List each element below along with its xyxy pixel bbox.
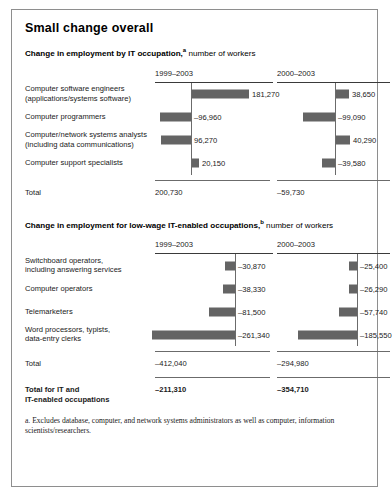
- chart-1-col-header-2: 2000–2003: [277, 69, 315, 80]
- chart-1-col-header-1: 1999–2003: [155, 69, 193, 80]
- chart-2-zeroline-b: [357, 277, 358, 300]
- chart-2-total-rule-b: [277, 351, 390, 352]
- chart-2-row-3-value-a: –81,500: [238, 307, 265, 316]
- chart-1-total-value-a: 200,730: [155, 188, 182, 197]
- section-2-title-bold: Change in employment for low-wage IT-ena…: [25, 221, 260, 230]
- chart-1-row-1: Computer software engineers(applications…: [25, 83, 364, 106]
- chart-2-row-1-bar-b: [349, 261, 357, 270]
- chart-1-total-row: Total 200,730 –59,730: [25, 175, 364, 201]
- chart-1-row-2-bar-b: [303, 113, 335, 122]
- chart-2-total-value-a: –412,040: [155, 359, 187, 368]
- chart-2-row-1: Switchboard operators,including answerin…: [25, 254, 364, 277]
- chart-1-total-label: Total: [25, 188, 41, 198]
- chart-1-total-rule-b: [277, 180, 390, 181]
- chart-2-row-4-value-b: –185,550: [360, 330, 392, 339]
- chart-2-total-label: Total: [25, 359, 41, 369]
- chart-1: 1999–2003 2000–2003 Computer software en…: [25, 68, 364, 201]
- chart-1-total-value-b: –59,730: [277, 188, 304, 197]
- grand-total-rule-b: [277, 377, 390, 378]
- chart-1-row-1-value-a: 181,270: [252, 90, 279, 99]
- chart-1-header-row: 1999–2003 2000–2003: [25, 68, 364, 83]
- chart-1-row-2-value-a: –96,960: [194, 113, 221, 122]
- chart-1-row-4-value-a: 20,150: [202, 159, 225, 168]
- chart-1-row-2-label: Computer programmers: [25, 112, 153, 122]
- chart-2-zeroline-b: [357, 323, 358, 346]
- chart-2-row-3-label: Telemarketers: [25, 307, 153, 317]
- chart-1-row-3-value-b: 40,290: [353, 136, 376, 145]
- section-2-title: Change in employment for low-wage IT-ena…: [25, 221, 364, 232]
- chart-1-zeroline-b: [335, 106, 336, 129]
- chart-2-zeroline-a: [235, 254, 236, 277]
- grand-total-row: Total for IT andIT-enabled occupations –…: [25, 372, 364, 402]
- chart-1-row-4-bar-b: [322, 159, 335, 168]
- chart-1-row-3-value-a: 96,270: [194, 136, 217, 145]
- chart-1-row-4-value-b: –39,580: [338, 159, 365, 168]
- section-1-title-normal: number of workers: [186, 49, 255, 58]
- chart-1-zeroline-a: [191, 106, 192, 129]
- chart-2-header-row: 1999–2003 2000–2003: [25, 239, 364, 254]
- chart-1-row-3-bar-a: [161, 136, 191, 145]
- grand-total-value-a: –211,310: [155, 385, 186, 394]
- grand-total-value-b: –354,710: [277, 385, 309, 394]
- chart-1-row-2-value-b: –99,090: [338, 113, 365, 122]
- chart-2-row-4-bar-a: [152, 330, 235, 339]
- chart-1-row-1-label: Computer software engineers(applications…: [25, 84, 153, 103]
- chart-1-row-2: Computer programmers –96,960 –99,090: [25, 106, 364, 129]
- chart-2-row-3-bar-b: [339, 307, 357, 316]
- chart-2-row-4-value-a: –261,340: [238, 330, 270, 339]
- chart-2-row-1-label: Switchboard operators,including answerin…: [25, 256, 153, 275]
- chart-2-row-1-value-a: –30,870: [238, 261, 265, 270]
- chart-2-row-4-label: Word processors, typists,data-entry cler…: [25, 325, 153, 344]
- section-spacer: [25, 201, 364, 221]
- chart-1-row-1-bar-a: [192, 90, 249, 99]
- chart-2-row-3-value-b: –57,740: [360, 307, 387, 316]
- chart-1-row-3-bar-b: [336, 136, 350, 145]
- section-2-title-normal: number of workers: [264, 221, 333, 230]
- grand-total-rule-a: [155, 377, 270, 378]
- chart-1-row-4-bar-a: [192, 159, 199, 168]
- grand-total-label: Total for IT andIT-enabled occupations: [25, 385, 109, 404]
- chart-2-zeroline-b: [357, 300, 358, 323]
- chart-2-row-2-value-a: –38,330: [238, 284, 265, 293]
- chart-2-row-4-bar-b: [298, 330, 357, 339]
- chart-2-zeroline-a: [235, 277, 236, 300]
- chart-2-row-1-bar-a: [225, 261, 235, 270]
- chart-2-row-2: Computer operators –38,330 –26,290: [25, 277, 364, 300]
- chart-1-row-3-label: Computer/network systems analysts(includ…: [25, 130, 153, 149]
- chart-1-row-4-label: Computer support specialists: [25, 158, 153, 168]
- chart-2-total-value-b: –294,980: [277, 359, 309, 368]
- chart-2-col-header-1: 1999–2003: [155, 240, 193, 251]
- chart-2-total-rule-a: [155, 351, 270, 352]
- chart-2-row-2-bar-b: [349, 284, 357, 293]
- chart-1-row-3: Computer/network systems analysts(includ…: [25, 129, 364, 152]
- chart-2-row-4: Word processors, typists,data-entry cler…: [25, 323, 364, 346]
- chart-2-row-1-value-b: –25,400: [360, 261, 387, 270]
- footnotes: a. Excludes database, computer, and netw…: [25, 416, 364, 436]
- chart-1-row-4: Computer support specialists 20,150 –39,…: [25, 152, 364, 175]
- chart-2-row-2-bar-a: [223, 284, 235, 293]
- section-1-title-bold: Change in employment by IT occupation,: [25, 49, 183, 58]
- chart-2-zeroline-b: [357, 254, 358, 277]
- chart-1-row-1-value-b: 38,650: [352, 90, 375, 99]
- chart-2: 1999–2003 2000–2003 Switchboard operator…: [25, 239, 364, 402]
- chart-1-row-1-bar-b: [336, 90, 349, 99]
- chart-2-zeroline-a: [235, 300, 236, 323]
- chart-1-row-2-bar-a: [160, 113, 191, 122]
- chart-2-row-2-value-b: –26,290: [360, 284, 387, 293]
- chart-1-zeroline-b: [335, 152, 336, 175]
- chart-2-row-3-bar-a: [209, 307, 235, 316]
- chart-2-total-row: Total –412,040 –294,980: [25, 346, 364, 372]
- chart-2-col-header-2: 2000–2003: [277, 240, 315, 251]
- chart-2-row-3: Telemarketers –81,500 –57,740: [25, 300, 364, 323]
- figure-title: Small change overall: [25, 21, 364, 35]
- chart-1-zeroline-a: [191, 129, 192, 152]
- chart-1-total-rule-a: [155, 180, 270, 181]
- chart-2-zeroline-a: [235, 323, 236, 346]
- figure-container: Small change overall Change in employmen…: [11, 9, 378, 487]
- chart-2-row-2-label: Computer operators: [25, 284, 153, 294]
- footnote-a: a. Excludes database, computer, and netw…: [25, 416, 364, 436]
- section-1-title: Change in employment by IT occupation,a …: [25, 49, 364, 60]
